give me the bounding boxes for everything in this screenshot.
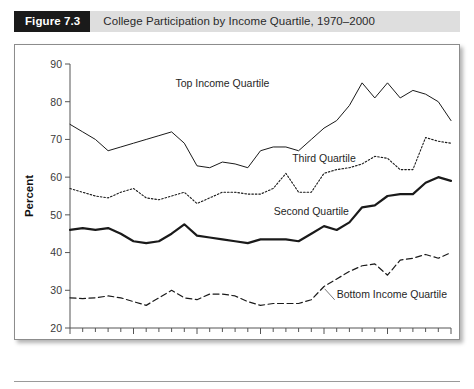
y-tick-label: 50: [50, 209, 62, 221]
x-tick-label: 1970: [58, 337, 82, 339]
series-line-2: [70, 177, 451, 243]
y-tick-label: 20: [50, 322, 62, 334]
y-tick-label: 60: [50, 171, 62, 183]
x-tick-label: 1980: [185, 337, 209, 339]
x-tick-label: 1975: [122, 337, 146, 339]
x-tick-label: 2000: [439, 337, 459, 339]
y-tick-label: 30: [50, 284, 62, 296]
series-line-1: [70, 138, 451, 204]
series-label-1: Third Quartile: [292, 152, 356, 164]
series-line-0: [70, 83, 451, 168]
y-axis-title: Percent: [23, 175, 35, 217]
line-chart: 2030405060708090197019751980198519901995…: [15, 45, 459, 339]
x-tick-label: 1990: [312, 337, 336, 339]
figure-number-badge: Figure 7.3: [14, 11, 90, 32]
y-tick-label: 40: [50, 246, 62, 258]
y-tick-label: 70: [50, 133, 62, 145]
series-label-0: Top Income Quartile: [175, 77, 269, 89]
section-divider: [14, 381, 460, 382]
y-tick-label: 90: [50, 58, 62, 70]
x-tick-label: 1995: [376, 337, 400, 339]
figure-header: Figure 7.3 College Participation by Inco…: [14, 11, 460, 32]
x-tick-label: 1985: [249, 337, 273, 339]
figure-caption: College Participation by Income Quartile…: [90, 11, 375, 32]
bottom-quartile-leader-line: [325, 289, 335, 300]
chart-frame: 2030405060708090197019751980198519901995…: [14, 44, 460, 340]
series-label-2: Second Quartile: [274, 205, 349, 217]
series-label-3: Bottom Income Quartile: [337, 288, 447, 300]
y-tick-label: 80: [50, 96, 62, 108]
